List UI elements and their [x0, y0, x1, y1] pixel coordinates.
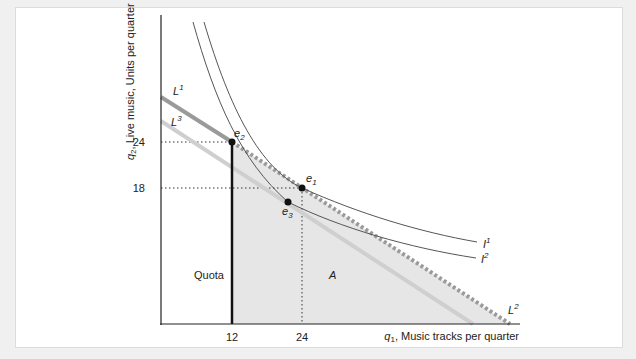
- x-tick-12: 12: [226, 331, 238, 343]
- label-i1: I1: [483, 236, 491, 250]
- point-e2: [229, 139, 236, 146]
- label-l1: L1: [173, 83, 184, 97]
- quota-label: Quota: [194, 269, 225, 281]
- x-tick-24: 24: [296, 331, 308, 343]
- chart-canvas: e2 e1 e3 L1 L3 L2 I1 I2 24 18 12 24 Quot…: [0, 0, 636, 359]
- area-a-label: A: [328, 269, 336, 281]
- label-l2: L2: [508, 302, 519, 316]
- label-i2: I2: [481, 251, 489, 265]
- label-e2: e2: [234, 127, 245, 142]
- x-axis-label: q1, Music tracks per quarter: [384, 330, 519, 344]
- y-axis-label: q2, Live music, Units per quarter: [124, 3, 138, 160]
- point-e1: [299, 185, 306, 192]
- label-l3: L3: [171, 114, 182, 128]
- y-tick-18: 18: [133, 182, 145, 194]
- label-e1: e1: [306, 172, 317, 187]
